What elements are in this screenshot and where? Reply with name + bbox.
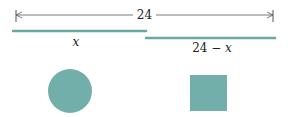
wire-cutting-diagram: 24 x 24 − x (0, 0, 288, 117)
segment-left-label: x (73, 35, 80, 49)
circle-shape (48, 69, 92, 113)
square-shape (190, 75, 227, 111)
total-length-label: 24 (137, 8, 153, 22)
dimension-line: 24 (16, 8, 273, 22)
segment-right-label: 24 − x (192, 41, 232, 55)
